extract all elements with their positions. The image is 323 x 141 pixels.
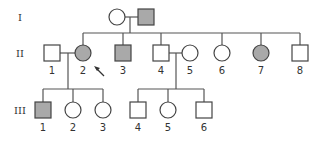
individual-III-6-male [196, 102, 212, 118]
label-II-7: 7 [258, 65, 264, 76]
generation-label-III: III [14, 105, 26, 116]
individual-III-3-female [95, 102, 111, 118]
label-III-6: 6 [201, 122, 207, 133]
label-II-5: 5 [187, 65, 193, 76]
label-II-8: 8 [297, 65, 303, 76]
individual-II-4-male [153, 45, 169, 61]
label-III-3: 3 [100, 122, 106, 133]
proband-arrow-icon [94, 66, 104, 76]
individual-II-8-male [292, 45, 308, 61]
individual-II-5-female [182, 45, 198, 61]
individual-II-2-female-affected [75, 45, 91, 61]
label-II-1: 1 [49, 65, 55, 76]
individual-III-5-female [160, 102, 176, 118]
individual-III-2-female [65, 102, 81, 118]
label-II-3: 3 [120, 65, 126, 76]
individual-I-2-male-affected [138, 9, 154, 25]
label-III-1: 1 [40, 122, 46, 133]
individual-II-6-female [214, 45, 230, 61]
pedigree-chart: I II III 1 2 3 4 5 6 7 8 [0, 0, 323, 141]
generation-label-I: I [18, 12, 22, 23]
individual-III-1-male-affected [35, 102, 51, 118]
label-II-4: 4 [158, 65, 164, 76]
label-III-4: 4 [135, 122, 141, 133]
label-II-6: 6 [219, 65, 225, 76]
label-III-2: 2 [70, 122, 76, 133]
individual-I-1-female [109, 9, 125, 25]
individual-II-7-female-affected [253, 45, 269, 61]
label-II-2: 2 [80, 65, 86, 76]
generation-label-II: II [16, 48, 24, 59]
individual-II-3-male-affected [115, 45, 131, 61]
label-III-5: 5 [165, 122, 171, 133]
individual-II-1-male [44, 45, 60, 61]
individual-III-4-male [130, 102, 146, 118]
